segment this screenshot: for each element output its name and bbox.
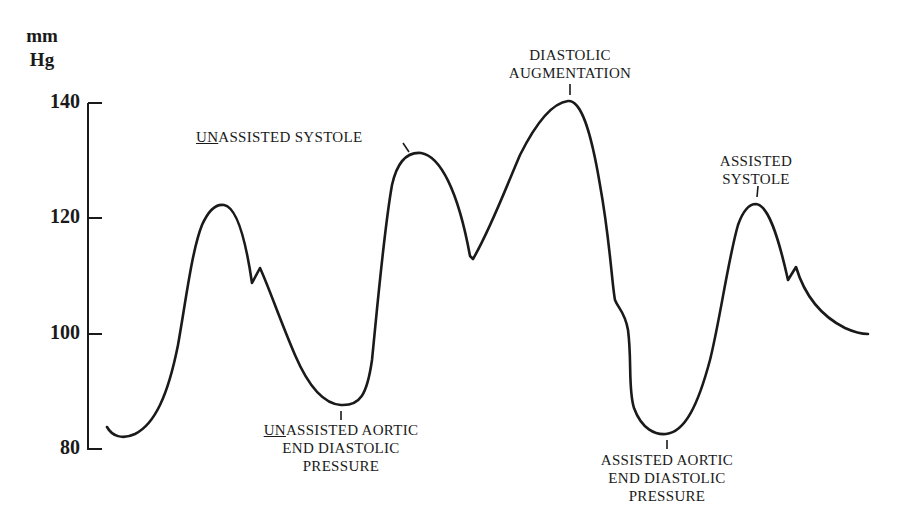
- annotation-diastolic-augmentation-line2: AUGMENTATION: [505, 64, 635, 82]
- annotation-assisted-edp: ASSISTED AORTIC END DIASTOLIC PRESSURE: [586, 451, 748, 505]
- annotation-leaders: [341, 84, 758, 449]
- annotation-diastolic-augmentation-line1: DIASTOLIC: [505, 46, 635, 64]
- annotation-unassisted-systole-prefix: UN: [196, 129, 218, 145]
- annotation-unassisted-edp-line1: UNASSISTED AORTIC: [250, 421, 432, 439]
- annotation-unassisted-edp-prefix: UN: [264, 422, 286, 438]
- annotation-unassisted-systole-rest: ASSISTED SYSTOLE: [218, 129, 362, 145]
- annotation-unassisted-edp-rest1: ASSISTED AORTIC: [286, 422, 418, 438]
- annotation-unassisted-edp: UNASSISTED AORTIC END DIASTOLIC PRESSURE: [250, 421, 432, 475]
- annotation-assisted-systole: ASSISTED SYSTOLE: [710, 152, 802, 188]
- annotation-assisted-edp-line2: END DIASTOLIC: [586, 469, 748, 487]
- annotation-unassisted-systole: UNASSISTED SYSTOLE: [196, 128, 362, 146]
- annotation-assisted-systole-line2: SYSTOLE: [710, 170, 802, 188]
- annotation-diastolic-augmentation: DIASTOLIC AUGMENTATION: [505, 46, 635, 82]
- annotation-assisted-edp-line3: PRESSURE: [586, 487, 748, 505]
- annotation-assisted-systole-line1: ASSISTED: [710, 152, 802, 170]
- unassisted-systole-leader: [403, 143, 409, 152]
- annotation-assisted-edp-line1: ASSISTED AORTIC: [586, 451, 748, 469]
- y-axis: [88, 103, 102, 450]
- annotation-unassisted-edp-line3: PRESSURE: [250, 457, 432, 475]
- chart-canvas: [0, 0, 910, 528]
- annotation-unassisted-edp-line2: END DIASTOLIC: [250, 439, 432, 457]
